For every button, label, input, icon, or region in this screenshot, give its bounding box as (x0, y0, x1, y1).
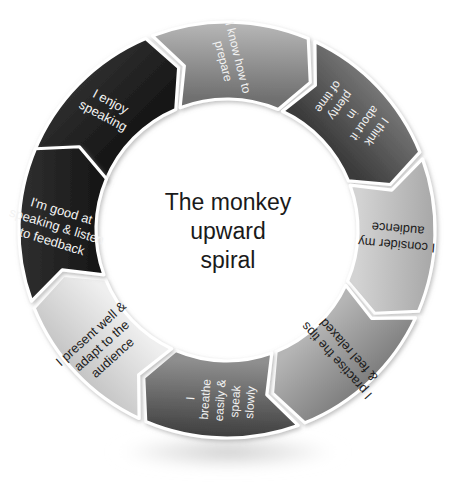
monkey-upward-spiral-cycle-diagram: I enjoyspeakingI know how toprepareI thi… (0, 0, 457, 494)
center-title-line-2: upward (190, 218, 265, 244)
ground-shadow (110, 435, 346, 469)
center-title: The monkey upward spiral (165, 189, 292, 273)
segment-label-line: breathe (197, 378, 214, 420)
center-title-line-1: The monkey (165, 189, 292, 215)
diagram-canvas: I enjoyspeakingI know how toprepareI thi… (0, 0, 457, 494)
segment-label-line: slowly (242, 386, 258, 420)
segment-label-line: speak (227, 384, 243, 418)
segment-label-line: easily & (212, 379, 229, 422)
center-title-line-3: spiral (201, 247, 256, 273)
